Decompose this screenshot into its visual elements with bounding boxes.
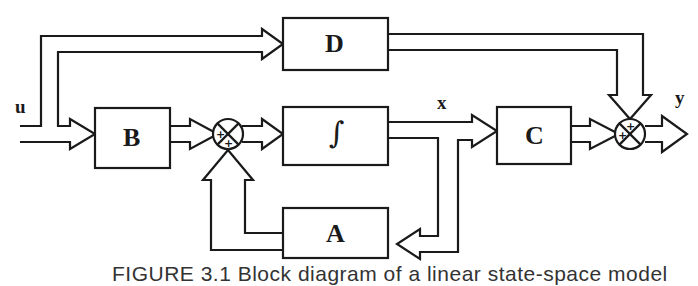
input-signal-label: u <box>15 97 26 116</box>
figure-caption: FIGURE 3.1 Block diagram of a linear sta… <box>112 262 668 286</box>
c-block-label: C <box>525 123 544 149</box>
sum2-to-y-arrow <box>645 116 687 152</box>
a-block-label: A <box>326 221 345 247</box>
integrator-symbol: ∫ <box>329 118 345 148</box>
sum2-plus-top: + <box>626 121 635 132</box>
integrator-to-c-path <box>388 115 497 259</box>
output-signal-label: y <box>675 88 685 107</box>
c-to-sum2-arrow <box>571 119 615 149</box>
b-block-label: B <box>123 125 140 151</box>
a-to-sum1-feedback <box>203 150 283 250</box>
sum1-plus-bottom: + <box>224 138 233 149</box>
sum1-to-integrator-arrow <box>242 119 283 149</box>
d-block-label: D <box>325 31 344 57</box>
b-to-sum1-arrow <box>170 119 214 149</box>
state-signal-label: x <box>437 93 447 112</box>
